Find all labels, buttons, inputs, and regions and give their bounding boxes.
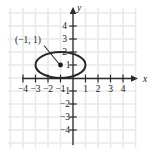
y-tick-label-neg2: −2	[60, 99, 70, 109]
center-point-callout: (−1, 1)	[15, 35, 41, 46]
x-tick-label-neg2: −2	[43, 84, 53, 94]
x-tick-label-1: 1	[83, 84, 88, 94]
y-tick-label-neg4: −4	[60, 125, 70, 135]
y-axis-label: y	[76, 3, 82, 13]
y-tick-label-1: 1	[66, 60, 71, 70]
y-tick-label-3: 3	[62, 34, 67, 44]
x-tick-label-4: 4	[121, 84, 126, 94]
y-tick-label-4: 4	[62, 21, 67, 31]
y-tick-label-neg1: −1	[60, 86, 70, 96]
coordinate-plane: −4 −3 −2 −1 1 2 3 4 4 3 2 1 −1 −2 −3 −4 …	[0, 0, 161, 156]
x-tick-label-neg3: −3	[30, 84, 40, 94]
graph-figure: −4 −3 −2 −1 1 2 3 4 4 3 2 1 −1 −2 −3 −4 …	[0, 0, 161, 156]
x-axis-label: x	[142, 74, 148, 84]
y-tick-label-neg3: −3	[60, 112, 70, 122]
x-tick-label-3: 3	[108, 84, 113, 94]
x-tick-label-2: 2	[96, 84, 101, 94]
x-tick-label-neg4: −4	[18, 84, 28, 94]
y-tick-label-2: 2	[62, 47, 67, 57]
center-point-marker	[58, 63, 63, 68]
